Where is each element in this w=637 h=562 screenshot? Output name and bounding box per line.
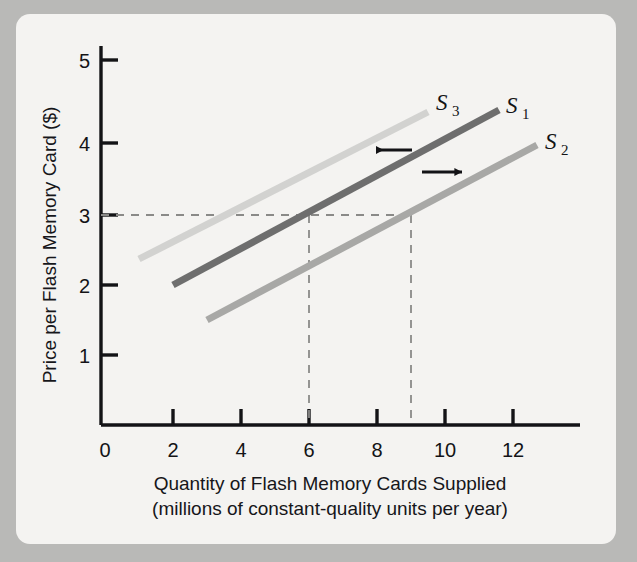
y-axis-ticks	[101, 60, 118, 355]
figure-root: Price per Flash Memory Card ($) 5 4 3 2 …	[0, 0, 637, 562]
y-axis-label: Price per Flash Memory Card ($)	[39, 107, 60, 384]
curve-label-S1-subscript: 1	[522, 106, 530, 122]
x-tick-label-0: 0	[99, 439, 110, 461]
x-axis-label-line1: Quantity of Flash Memory Cards Supplied	[154, 473, 507, 494]
x-tick-label-10: 10	[434, 439, 456, 461]
curve-label-S1-letter: S	[506, 93, 518, 118]
x-axis-label: Quantity of Flash Memory Cards Supplied …	[152, 473, 508, 519]
x-tick-label-4: 4	[235, 439, 246, 461]
supply-curve-S3[interactable]	[139, 112, 428, 259]
curve-label-S2-letter: S	[545, 129, 557, 154]
y-tick-label-3: 3	[79, 205, 90, 227]
curve-label-S1: S 1	[506, 93, 530, 122]
y-axis-label-text: Price per Flash Memory Card ($)	[39, 107, 60, 384]
reference-lines	[101, 215, 412, 425]
y-axis-tick-labels: 5 4 3 2 1	[79, 50, 90, 367]
y-tick-label-5: 5	[79, 50, 90, 72]
curve-label-S3-letter: S	[436, 90, 448, 115]
supply-curve-S2[interactable]	[207, 145, 537, 320]
x-tick-label-6: 6	[303, 439, 314, 461]
supply-curve-chart: Price per Flash Memory Card ($) 5 4 3 2 …	[0, 0, 637, 562]
x-tick-label-2: 2	[167, 439, 178, 461]
x-axis-tick-labels: 0 2 4 6 8 10 12	[99, 439, 524, 461]
y-tick-label-4: 4	[79, 133, 90, 155]
x-axis-label-line2: (millions of constant-quality units per …	[152, 498, 508, 519]
supply-curve-S1[interactable]	[173, 110, 499, 285]
y-tick-label-2: 2	[79, 275, 90, 297]
curve-label-S2-subscript: 2	[561, 142, 569, 158]
y-tick-label-1: 1	[79, 345, 90, 367]
curve-label-S2: S 2	[545, 129, 569, 158]
curve-label-S3: S 3	[436, 90, 460, 119]
curve-label-S3-subscript: 3	[452, 103, 460, 119]
x-axis-ticks	[173, 409, 513, 425]
x-tick-label-8: 8	[371, 439, 382, 461]
x-tick-label-12: 12	[502, 439, 524, 461]
